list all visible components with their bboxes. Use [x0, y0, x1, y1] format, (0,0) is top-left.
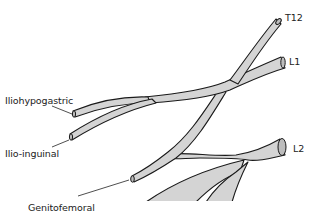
iliohypogastric-label: Iliohypogastric: [5, 95, 73, 106]
l2-label: L2: [293, 143, 304, 154]
iliohypogastric-leader-line: [52, 106, 72, 114]
ilioinguinal-leader-line: [52, 140, 69, 147]
t12-label: T12: [285, 12, 303, 23]
genitofemoral-leader-line: [78, 180, 129, 196]
l1-label: L1: [289, 56, 300, 67]
ilioinguinal-label: Ilio-inguinal: [5, 148, 59, 159]
genitofemoral-label: Genitofemoral: [28, 202, 95, 213]
lumbar-plexus-diagram: [0, 0, 310, 216]
